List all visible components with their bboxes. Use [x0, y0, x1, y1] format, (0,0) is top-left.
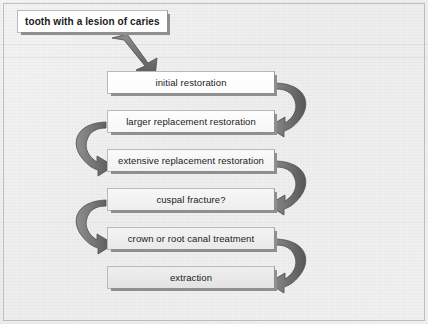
node-larger-replacement-restoration: larger replacement restoration [107, 110, 275, 133]
node-label: tooth with a lesion of caries [25, 17, 160, 27]
node-label: extensive replacement restoration [118, 156, 264, 166]
node-initial-restoration: initial restoration [107, 71, 275, 94]
scan-streak [0, 222, 428, 223]
node-label: initial restoration [155, 78, 226, 88]
node-crown-or-root-canal-treatment: crown or root canal treatment [107, 227, 275, 250]
node-label: extraction [170, 273, 212, 283]
node-extensive-replacement-restoration: extensive replacement restoration [107, 149, 275, 172]
diagram-canvas: tooth with a lesion of caries initial re… [0, 0, 428, 324]
scan-streak [0, 44, 428, 45]
node-extraction: extraction [107, 266, 275, 289]
node-label: crown or root canal treatment [128, 234, 254, 244]
node-tooth-with-lesion-of-caries: tooth with a lesion of caries [17, 10, 168, 33]
scan-streak [0, 57, 428, 58]
node-label: larger replacement restoration [126, 117, 256, 127]
node-cuspal-fracture: cuspal fracture? [107, 188, 275, 211]
node-label: cuspal fracture? [156, 195, 225, 205]
